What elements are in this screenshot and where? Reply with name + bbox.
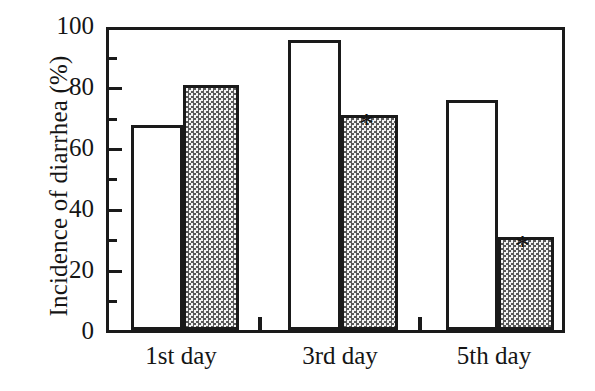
bar-3rd-day-hatched — [341, 115, 398, 330]
x-tick-label-1st-day: 1st day — [106, 341, 256, 371]
y-tick-major-20 — [109, 270, 122, 273]
y-tick-minor-50 — [109, 178, 117, 181]
significance-star-3rd-day: * — [359, 114, 374, 132]
bar-1st-day-hatched — [183, 85, 239, 330]
y-tick-minor-30 — [109, 239, 117, 242]
y-tick-minor-90 — [109, 57, 117, 60]
y-tick-major-80 — [109, 87, 122, 90]
y-tick-major-40 — [109, 209, 122, 212]
x-tick-separator-1 — [258, 317, 262, 330]
x-tick-label-3rd-day: 3rd day — [262, 341, 418, 371]
bar-chart-figure: Incidence of diarrhea (%) 100 80 60 40 2… — [0, 0, 595, 391]
plot-inner: * * — [109, 30, 562, 330]
y-tick-label-40: 40 — [4, 196, 94, 221]
significance-star-5th-day: * — [515, 236, 530, 254]
bar-3rd-day-open — [288, 40, 341, 330]
y-tick-label-20: 20 — [4, 257, 94, 282]
plot-area: * * — [106, 27, 565, 333]
x-tick-separator-2 — [418, 317, 422, 330]
bar-1st-day-open — [131, 125, 183, 330]
y-tick-label-80: 80 — [4, 74, 94, 99]
y-tick-minor-70 — [109, 118, 117, 121]
bar-5th-day-open — [446, 100, 498, 330]
y-tick-major-60 — [109, 148, 122, 151]
y-axis-tick-labels: 100 80 60 40 20 0 — [0, 27, 100, 333]
y-tick-label-0: 0 — [4, 318, 94, 343]
y-tick-minor-10 — [109, 300, 117, 303]
y-tick-label-100: 100 — [4, 13, 94, 38]
x-tick-label-5th-day: 5th day — [419, 341, 569, 371]
y-tick-label-60: 60 — [4, 135, 94, 160]
x-axis-tick-labels: 1st day 3rd day 5th day — [106, 341, 565, 381]
